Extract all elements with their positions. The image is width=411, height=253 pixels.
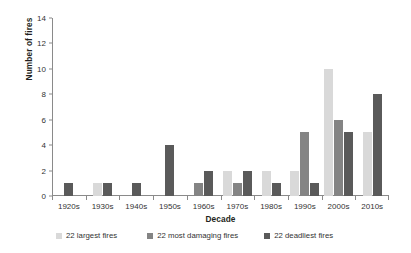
y-axis-tick-label: 12 <box>37 39 46 48</box>
bar-group <box>86 18 120 196</box>
x-axis-tick-mark <box>187 196 188 200</box>
bar <box>194 183 203 196</box>
bar <box>103 183 112 196</box>
bar <box>334 120 343 196</box>
legend-label: 22 largest fires <box>66 231 117 240</box>
bar <box>233 183 242 196</box>
bar-group <box>187 18 221 196</box>
x-axis-tick-label: 2000s <box>322 202 356 211</box>
plot-area: 02468101214 <box>52 18 389 196</box>
bar <box>93 183 102 196</box>
bar-group <box>288 18 322 196</box>
x-axis-tick-mark <box>288 196 289 200</box>
x-axis-tick-label: 1970s <box>221 202 255 211</box>
bar-group <box>355 18 389 196</box>
bar <box>165 145 174 196</box>
x-axis-tick-mark <box>388 196 389 200</box>
x-axis-tick-label: 1980s <box>254 202 288 211</box>
x-axis-tick-mark <box>153 196 154 200</box>
bar <box>363 132 372 196</box>
legend-item: 22 deadliest fires <box>264 231 333 240</box>
x-axis-tick-labels: 1920s1930s1940s1950s1960s1970s1980s1990s… <box>52 202 389 211</box>
x-axis-tick-label: 1990s <box>288 202 322 211</box>
x-axis-tick-mark <box>254 196 255 200</box>
bar <box>300 132 309 196</box>
chart-legend: 22 largest fires22 most damaging fires22… <box>52 231 397 240</box>
bar <box>373 94 382 196</box>
x-axis-tick-label: 2010s <box>355 202 389 211</box>
y-axis-tick-label: 2 <box>42 166 46 175</box>
bar <box>310 183 319 196</box>
x-axis-tick-label: 1950s <box>153 202 187 211</box>
y-axis-tick-label: 0 <box>42 192 46 201</box>
legend-item: 22 largest fires <box>56 231 117 240</box>
y-axis-tick-label: 10 <box>37 64 46 73</box>
bar <box>324 69 333 196</box>
bar-group <box>322 18 356 196</box>
bar <box>344 132 353 196</box>
y-axis-tick-label: 4 <box>42 141 46 150</box>
x-axis-tick-mark <box>52 196 53 200</box>
bar <box>272 183 281 196</box>
legend-label: 22 most damaging fires <box>157 231 238 240</box>
legend-swatch-icon <box>264 233 270 239</box>
bar-group <box>221 18 255 196</box>
legend-swatch-icon <box>147 233 153 239</box>
bar <box>204 171 213 196</box>
bar <box>223 171 232 196</box>
x-axis-title: Decade <box>52 214 389 224</box>
legend-item: 22 most damaging fires <box>147 231 238 240</box>
x-axis-tick-mark <box>119 196 120 200</box>
fires-by-decade-bar-chart: Number of fires 02468101214 1920s1930s19… <box>0 0 411 253</box>
x-axis-tick-label: 1940s <box>119 202 153 211</box>
x-axis-tick-mark <box>221 196 222 200</box>
bar-groups <box>52 18 389 196</box>
bar-group <box>119 18 153 196</box>
y-axis-tick-label: 6 <box>42 115 46 124</box>
bar <box>290 171 299 196</box>
x-axis-tick-mark <box>86 196 87 200</box>
legend-label: 22 deadliest fires <box>274 231 333 240</box>
bar-group <box>153 18 187 196</box>
bar <box>243 171 252 196</box>
legend-swatch-icon <box>56 233 62 239</box>
x-axis-tick-mark <box>322 196 323 200</box>
x-axis-tick-label: 1960s <box>187 202 221 211</box>
y-axis-title: Number of fires <box>24 0 34 104</box>
bar-group <box>254 18 288 196</box>
x-axis-tick-label: 1930s <box>86 202 120 211</box>
bar <box>262 171 271 196</box>
y-axis-tick-label: 14 <box>37 14 46 23</box>
y-axis-tick-label: 8 <box>42 90 46 99</box>
x-axis-tick-label: 1920s <box>52 202 86 211</box>
bar-group <box>52 18 86 196</box>
bar <box>64 183 73 196</box>
bar <box>132 183 141 196</box>
x-axis-tick-mark <box>355 196 356 200</box>
